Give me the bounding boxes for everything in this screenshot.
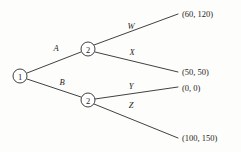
game-tree-figure: 1 2 2 A B W X Y Z (60, 120) (50, 50) (0,… xyxy=(0,0,241,152)
payoff-labels-group: (60, 120) (50, 50) (0, 0) (100, 150) xyxy=(182,9,218,143)
edge-label-w: W xyxy=(127,21,135,31)
payoff-label-w: (60, 120) xyxy=(182,9,213,19)
node-root-label: 1 xyxy=(18,72,22,82)
edge-a-line xyxy=(27,52,81,73)
edge-x-line xyxy=(95,52,178,72)
game-tree-canvas: 1 2 2 A B W X Y Z (60, 120) (50, 50) (0,… xyxy=(0,0,241,152)
payoff-label-x: (50, 50) xyxy=(182,67,209,77)
edge-label-b: B xyxy=(59,77,64,87)
payoff-label-y: (0, 0) xyxy=(182,83,201,93)
node-upper-label: 2 xyxy=(86,45,90,55)
edge-b-line xyxy=(27,79,81,97)
node-lower-label: 2 xyxy=(86,96,90,106)
edge-label-a: A xyxy=(52,43,59,53)
edges-group xyxy=(27,14,178,138)
edge-label-z: Z xyxy=(129,100,134,110)
edge-z-line xyxy=(94,104,178,138)
edge-y-line xyxy=(95,87,178,99)
payoff-label-z: (100, 150) xyxy=(182,133,218,143)
edge-w-line xyxy=(94,14,178,45)
edge-label-x: X xyxy=(128,47,135,57)
edge-label-y: Y xyxy=(129,81,135,91)
